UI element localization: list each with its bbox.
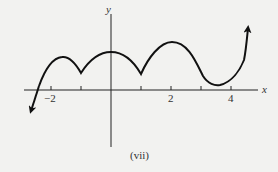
tick-label-neg2: −2 [44, 92, 56, 104]
figure-caption: (vii) [130, 149, 149, 162]
x-ticks [51, 86, 231, 90]
y-axis-label: y [105, 3, 111, 15]
x-axis-label: x [261, 83, 267, 95]
function-curve [39, 28, 248, 86]
tick-label-4: 4 [228, 92, 234, 104]
function-graph: −2 2 4 x y (vii) [0, 0, 278, 172]
tick-label-2: 2 [168, 92, 174, 104]
